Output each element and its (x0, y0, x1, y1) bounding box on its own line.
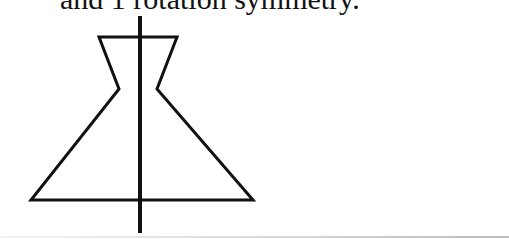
symmetry-figure (0, 0, 509, 239)
bottom-divider (0, 236, 509, 238)
